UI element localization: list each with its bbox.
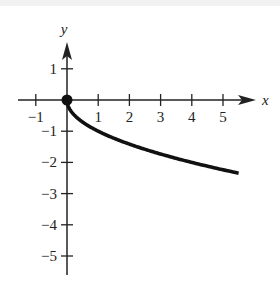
x-axis-label: x [261, 92, 269, 108]
y-tick-label: 1 [50, 61, 58, 77]
x-tick-label: 3 [157, 109, 165, 125]
y-tick-label: −4 [41, 217, 57, 233]
curve [62, 95, 239, 174]
y-tick-label: −2 [41, 154, 57, 170]
function-graph: −1123451−1−2−3−4−5xy [0, 0, 280, 286]
closed-point-icon [62, 95, 73, 106]
y-tick-label: −3 [41, 186, 57, 202]
y-tick-label: −1 [41, 123, 57, 139]
x-tick-label: 2 [126, 109, 134, 125]
x-tick-label: 4 [188, 109, 196, 125]
y-axis-label: y [59, 21, 68, 37]
x-tick-label: 1 [94, 109, 102, 125]
function-curve [67, 100, 239, 173]
x-tick-label: 5 [219, 109, 227, 125]
y-tick-label: −5 [41, 248, 57, 264]
